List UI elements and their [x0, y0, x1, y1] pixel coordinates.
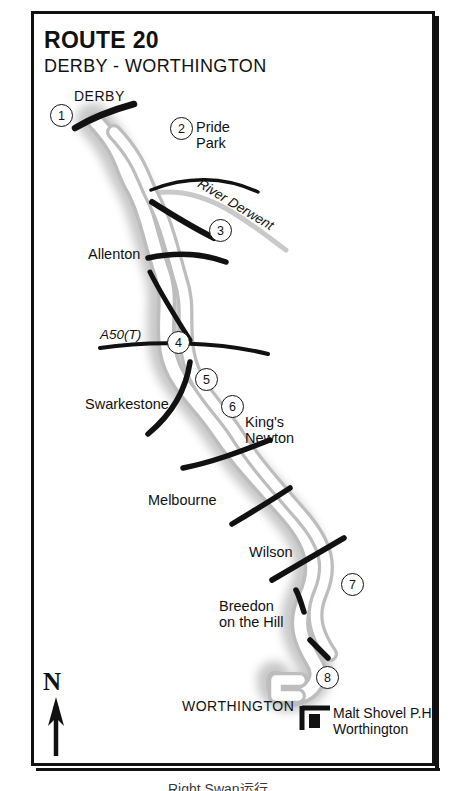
place-label-pride-park: Pride Park [196, 119, 230, 151]
stop-marker-4[interactable]: 4 [167, 331, 190, 354]
legend-label: Malt Shovel P.H. Worthington [333, 705, 435, 737]
place-label-allenton: Allenton [88, 246, 140, 262]
place-label-a50-t: A50(T) [100, 327, 141, 343]
stop-marker-2[interactable]: 2 [170, 117, 193, 140]
stop-marker-7[interactable]: 7 [341, 573, 364, 596]
page-caption: Right Swan运行 [168, 778, 268, 791]
place-label-wilson: Wilson [249, 544, 293, 560]
stop-marker-6[interactable]: 6 [221, 395, 244, 418]
stop-marker-3[interactable]: 3 [209, 219, 232, 242]
stop-marker-1[interactable]: 1 [50, 104, 73, 127]
place-label-derby: DERBY [74, 88, 125, 104]
stop-marker-8[interactable]: 8 [316, 666, 339, 689]
place-label-worthington: WORTHINGTON [182, 698, 294, 714]
place-label-swarkestone: Swarkestone [85, 396, 169, 412]
stop-marker-5[interactable]: 5 [195, 368, 218, 391]
map-page: ROUTE 20 DERBY - WORTHINGTON [0, 0, 465, 791]
place-label-melbourne: Melbourne [148, 492, 217, 508]
north-arrow-icon [48, 697, 64, 756]
north-label: N [43, 668, 61, 696]
place-label-king-s-newton: King's Newton [245, 414, 294, 446]
place-label-breedon-on-the-hill: Breedon on the Hill [219, 598, 283, 630]
pub-building-marker-icon [302, 706, 330, 730]
